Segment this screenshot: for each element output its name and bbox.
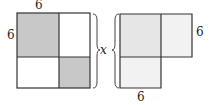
right-top-left-square <box>120 14 161 57</box>
brace-group: x <box>93 14 119 88</box>
right-brace-icon <box>112 14 119 88</box>
right-top-right-rect <box>161 14 192 57</box>
left-top-right-rect <box>59 13 90 57</box>
right-bottom-label: 6 <box>137 90 145 104</box>
right-side-label: 6 <box>196 25 204 39</box>
left-bottom-right-shaded-square <box>59 57 90 88</box>
left-bottom-left-rect <box>17 57 59 88</box>
right-l-figure: 6 6 <box>120 14 204 104</box>
left-square-figure: 6 6 <box>7 0 90 88</box>
left-side-label: 6 <box>7 28 15 42</box>
left-brace-icon <box>93 14 100 88</box>
right-bottom-rect <box>120 57 161 88</box>
brace-x-label: x <box>100 43 107 57</box>
diagram-canvas: 6 6 x 6 6 <box>0 0 209 105</box>
left-top-left-shaded-square <box>17 13 59 57</box>
left-top-label: 6 <box>35 0 43 12</box>
